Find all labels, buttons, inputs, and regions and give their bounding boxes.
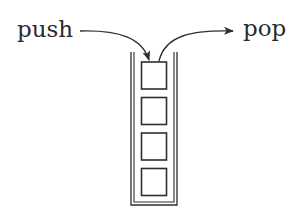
pop-label: pop [243,15,286,41]
stack-item-2 [142,98,167,125]
stack-item-3 [142,133,167,160]
stack-item-4 [142,169,167,196]
stack-diagram: push pop [0,0,299,216]
push-arrow-icon [80,31,149,60]
stack-container [131,52,177,205]
push-label: push [17,16,73,42]
stack-item-1 [142,62,167,89]
pop-arrow-icon [159,31,233,61]
